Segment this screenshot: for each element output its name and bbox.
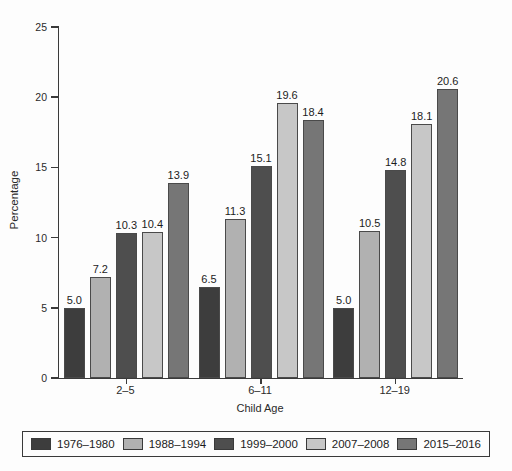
- bar-group: 5.010.514.818.120.6: [328, 27, 463, 378]
- legend-swatch-icon: [397, 438, 417, 450]
- bar-value-label: 10.3: [116, 219, 137, 231]
- legend-label: 1988–1994: [149, 438, 207, 450]
- bar-value-label: 10.5: [359, 217, 380, 229]
- bar: 10.4: [142, 232, 163, 378]
- bar-value-label: 19.6: [276, 89, 297, 101]
- bar: 20.6: [437, 89, 458, 378]
- y-axis-tick: [51, 307, 59, 309]
- legend-item: 1999–2000: [214, 438, 298, 450]
- legend-label: 2015–2016: [423, 438, 481, 450]
- bar-value-label: 20.6: [437, 75, 458, 87]
- y-axis-tick: [51, 167, 59, 169]
- bar-value-label: 7.2: [93, 263, 108, 275]
- bar: 11.3: [225, 219, 246, 378]
- y-axis-tick: [51, 377, 59, 379]
- bar-value-label: 13.9: [168, 169, 189, 181]
- bar-groups: 5.07.210.310.413.96.511.315.119.618.45.0…: [59, 27, 463, 378]
- x-axis-category-label: 2–5: [58, 384, 193, 396]
- bar-value-label: 11.3: [225, 205, 246, 217]
- y-axis-tick-label: 15: [23, 161, 47, 173]
- y-axis-tick-label: 25: [23, 21, 47, 33]
- y-axis-tick-label: 20: [23, 91, 47, 103]
- bar-value-label: 5.0: [336, 294, 351, 306]
- bar: 6.5: [199, 287, 220, 378]
- legend-item: 1988–1994: [123, 438, 207, 450]
- y-axis-title: Percentage: [8, 171, 20, 230]
- legend-item: 2007–2008: [306, 438, 390, 450]
- bar: 7.2: [90, 277, 111, 378]
- bar: 18.4: [303, 120, 324, 378]
- y-axis-tick-label: 0: [23, 372, 47, 384]
- bar: 5.0: [333, 308, 354, 378]
- x-axis-title: Child Age: [58, 402, 462, 414]
- bar-value-label: 14.8: [385, 156, 406, 168]
- bar-value-label: 6.5: [201, 273, 216, 285]
- legend-swatch-icon: [31, 438, 51, 450]
- legend-swatch-icon: [214, 438, 234, 450]
- x-axis-category-label: 6–11: [193, 384, 328, 396]
- legend-item: 2015–2016: [397, 438, 481, 450]
- bar: 18.1: [411, 124, 432, 378]
- bar: 15.1: [251, 166, 272, 378]
- bar-group: 5.07.210.310.413.9: [59, 27, 194, 378]
- bar-value-label: 18.1: [411, 110, 432, 122]
- bar-chart-figure: Percentage 5.07.210.310.413.96.511.315.1…: [0, 0, 512, 471]
- legend-item: 1976–1980: [31, 438, 115, 450]
- bar-group: 6.511.315.119.618.4: [194, 27, 329, 378]
- legend-label: 1999–2000: [240, 438, 298, 450]
- bar: 13.9: [168, 183, 189, 378]
- bar-value-label: 18.4: [302, 106, 323, 118]
- bar: 19.6: [277, 103, 298, 378]
- bar-value-label: 15.1: [250, 152, 271, 164]
- legend-swatch-icon: [123, 438, 143, 450]
- legend: 1976–19801988–19941999–20002007–20082015…: [22, 431, 490, 457]
- x-axis-category-labels: 2–56–1112–19: [58, 384, 462, 396]
- x-axis-category-label: 12–19: [327, 384, 462, 396]
- legend-label: 1976–1980: [57, 438, 115, 450]
- bar: 5.0: [64, 308, 85, 378]
- bar: 10.5: [359, 231, 380, 378]
- bar-value-label: 5.0: [67, 294, 82, 306]
- plot-area: 5.07.210.310.413.96.511.315.119.618.45.0…: [58, 27, 463, 379]
- y-axis-tick-label: 5: [23, 302, 47, 314]
- y-axis-tick-label: 10: [23, 232, 47, 244]
- y-axis-tick: [51, 96, 59, 98]
- bar-value-label: 10.4: [142, 218, 163, 230]
- legend-label: 2007–2008: [332, 438, 390, 450]
- y-axis-tick: [51, 26, 59, 28]
- bar: 10.3: [116, 233, 137, 378]
- legend-swatch-icon: [306, 438, 326, 450]
- y-axis-tick: [51, 237, 59, 239]
- bar: 14.8: [385, 170, 406, 378]
